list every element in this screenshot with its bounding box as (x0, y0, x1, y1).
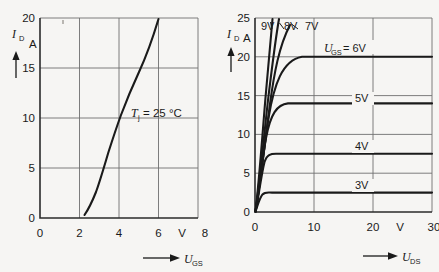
left-chart: 20 15 10 5 0 0 2 4 6 8 V I D A U (11, 12, 208, 268)
right-curve-label-3v-group: 3V (352, 179, 374, 192)
right-ytick-0: 0 (244, 206, 250, 218)
right-y-unit: A (243, 32, 251, 44)
right-xtick-10: 10 (308, 221, 321, 233)
right-x-axis-label: U DS (363, 250, 420, 266)
param-label-subscript: GS (331, 48, 342, 57)
left-ytick-10: 10 (22, 112, 35, 124)
right-xtick-30: 30 (428, 221, 439, 233)
right-y-axis-label: I D A (226, 27, 251, 72)
right-x-unit: V (396, 221, 404, 233)
left-y-axis-symbol: I (11, 27, 17, 41)
left-xtick-2: 2 (76, 227, 82, 239)
left-x-axis-label: U GS (143, 252, 203, 268)
left-ytick-15: 15 (22, 62, 35, 74)
left-xtick-0: 0 (37, 227, 43, 239)
right-curve-5v (256, 103, 433, 211)
annotation-T-value: = 25 °C (143, 107, 182, 119)
right-curve-3v (256, 192, 433, 211)
right-xtick-20: 20 (367, 221, 380, 233)
right-curve-label-6v: U GS = 6V (322, 40, 384, 57)
right-chart: 25 20 15 10 5 0 0 10 20 30 V I D A U (226, 12, 439, 266)
right-curve-4v (256, 154, 433, 212)
left-x-axis-arrow-icon (143, 254, 180, 262)
left-chart-annotation-temperature: T j = 25 °C (131, 106, 182, 122)
param-label-value: = 6V (343, 42, 367, 54)
left-xtick-6: 6 (155, 227, 161, 239)
left-ytick-20: 20 (22, 12, 35, 24)
right-y-axis-subscript: D (234, 34, 240, 43)
right-curve-label-7v: 7V (305, 20, 319, 32)
right-y-axis-arrow-icon (227, 47, 234, 72)
right-x-axis-subscript: DS (410, 257, 420, 266)
right-curve-label-8v: 8V (284, 20, 298, 32)
left-y-unit: A (29, 38, 37, 50)
scan-speck (62, 20, 64, 24)
left-ytick-0: 0 (29, 212, 35, 224)
right-x-axis-arrow-icon (363, 252, 398, 260)
right-curve-label-9v: 9V (261, 20, 275, 32)
left-x-axis-subscript: GS (192, 259, 203, 268)
right-y-axis-symbol: I (226, 27, 232, 41)
left-y-axis-subscript: D (19, 34, 25, 43)
right-curve-label-4v: 4V (355, 140, 369, 152)
annotation-T-subscript: j (137, 113, 140, 122)
right-curve-7v (256, 25, 291, 212)
left-ytick-5: 5 (29, 162, 35, 174)
left-y-axis-arrow-icon (12, 51, 19, 78)
figure-container: 20 15 10 5 0 0 2 4 6 8 V I D A U (0, 0, 439, 272)
right-curve-label-5v-group: 5V (352, 92, 374, 105)
right-ytick-25: 25 (237, 12, 250, 24)
characteristics-figure: 20 15 10 5 0 0 2 4 6 8 V I D A U (0, 0, 439, 272)
right-ytick-20: 20 (237, 51, 250, 63)
left-x-unit: V (178, 227, 186, 239)
right-curve-label-5v: 5V (355, 92, 369, 104)
left-xtick-8: 8 (202, 227, 208, 239)
right-ytick-15: 15 (237, 90, 250, 102)
right-ytick-10: 10 (237, 128, 250, 140)
right-curve-label-3v: 3V (355, 179, 369, 191)
left-xtick-4: 4 (116, 227, 123, 239)
right-xtick-0: 0 (252, 221, 258, 233)
right-curve-label-4v-group: 4V (352, 140, 374, 153)
right-ytick-5: 5 (244, 167, 250, 179)
